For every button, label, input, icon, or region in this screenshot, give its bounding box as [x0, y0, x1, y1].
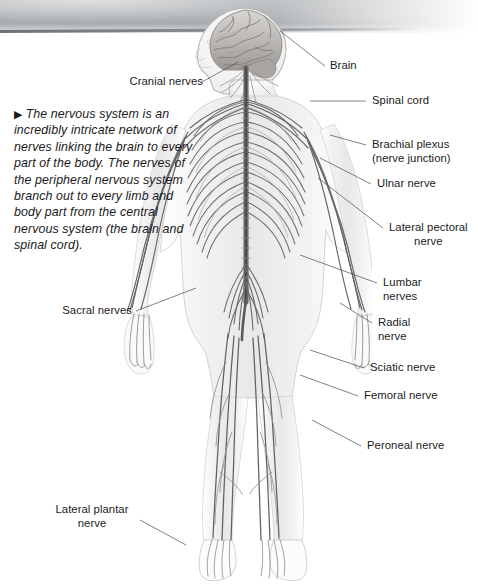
- diagram-page: ▶ The nervous system is an incredibly in…: [0, 0, 478, 585]
- nervous-system-figure: [120, 2, 372, 585]
- figure-caption: ▶ The nervous system is an incredibly in…: [14, 106, 200, 254]
- label-peroneal-nerve: Peroneal nerve: [367, 439, 444, 453]
- label-ulnar-nerve: Ulnar nerve: [377, 177, 436, 191]
- label-radial-nerve-subtext: nerve: [378, 330, 410, 344]
- label-lumbar-nerves: Lumbar nerves: [383, 276, 422, 303]
- label-sciatic-nerve-text: Sciatic nerve: [370, 361, 435, 373]
- label-lateral-plantar-subtext: nerve: [48, 517, 136, 531]
- label-lateral-pectoral-subtext: nerve: [389, 235, 468, 249]
- label-sacral-nerves-text: Sacral nerves: [62, 304, 132, 316]
- label-femoral-nerve: Femoral nerve: [364, 389, 437, 403]
- label-lateral-plantar-text: Lateral plantar: [48, 503, 136, 517]
- label-lateral-pectoral-nerve: Lateral pectoral nerve: [389, 221, 468, 248]
- label-radial-nerve-text: Radial: [378, 316, 410, 330]
- label-femoral-nerve-text: Femoral nerve: [364, 389, 437, 401]
- label-brachial-plexus-subtext: (nerve junction): [372, 152, 451, 166]
- label-cranial-nerves: Cranial nerves: [31, 75, 203, 89]
- label-cranial-nerves-text: Cranial nerves: [129, 75, 203, 87]
- label-ulnar-nerve-text: Ulnar nerve: [377, 177, 436, 189]
- caption-arrow-icon: ▶: [14, 108, 22, 120]
- label-sacral-nerves: Sacral nerves: [0, 304, 132, 318]
- label-brachial-plexus: Brachial plexus (nerve junction): [372, 138, 451, 165]
- label-spinal-cord: Spinal cord: [372, 94, 429, 108]
- label-peroneal-nerve-text: Peroneal nerve: [367, 439, 444, 451]
- caption-text: The nervous system is an incredibly intr…: [14, 107, 192, 252]
- label-lateral-pectoral-text: Lateral pectoral: [389, 221, 468, 235]
- label-brain: Brain: [330, 59, 357, 73]
- label-lumbar-nerves-text: Lumbar: [383, 276, 422, 290]
- label-lumbar-nerves-subtext: nerves: [383, 290, 422, 304]
- label-radial-nerve: Radial nerve: [378, 316, 410, 343]
- label-sciatic-nerve: Sciatic nerve: [370, 361, 435, 375]
- label-brain-text: Brain: [330, 59, 357, 71]
- label-lateral-plantar-nerve: Lateral plantar nerve: [48, 503, 136, 530]
- label-brachial-plexus-text: Brachial plexus: [372, 138, 451, 152]
- label-spinal-cord-text: Spinal cord: [372, 94, 429, 106]
